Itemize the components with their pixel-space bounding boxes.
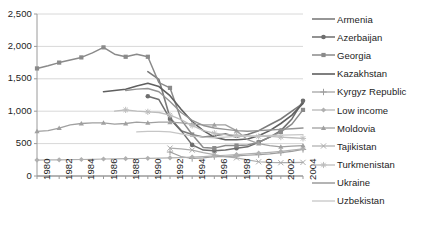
x-tick-label: 1996: [218, 158, 229, 180]
legend-item-azerbaijan[interactable]: Azerbaijan: [311, 28, 424, 46]
x-tick-label: 1980: [41, 158, 52, 180]
x-tick-label: 1994: [196, 158, 207, 180]
legend-label: Azerbaijan: [337, 32, 382, 43]
legend-key-icon: [311, 12, 337, 26]
chart-legend: ArmeniaAzerbaijanGeorgiaKazakhstanKyrgyz…: [311, 10, 424, 210]
legend-item-low-income[interactable]: Low income: [311, 101, 424, 119]
legend-label: Uzbekistan: [337, 195, 385, 206]
x-tick-label: 1992: [174, 158, 185, 180]
legend-item-georgia[interactable]: Georgia: [311, 46, 424, 64]
legend-item-ukraine[interactable]: Ukraine: [311, 174, 424, 192]
legend-item-uzbekistan[interactable]: Uzbekistan: [311, 192, 424, 210]
x-tick-label: 2002: [285, 158, 296, 180]
y-tick-label: 1,500: [0, 73, 32, 83]
legend-item-armenia[interactable]: Armenia: [311, 10, 424, 28]
legend-label: Turkmenistan: [337, 159, 395, 170]
legend-key-icon: [311, 139, 337, 153]
legend-label: Kazakhstan: [337, 68, 387, 79]
legend-label: Moldovia: [337, 123, 375, 134]
x-tick-label: 1984: [85, 158, 96, 180]
y-tick-label: 1,000: [0, 106, 32, 116]
legend-label: Tajikistan: [337, 141, 377, 152]
legend-key-icon: [311, 103, 337, 117]
legend-item-kyrgyz-republic[interactable]: Kyrgyz Republic: [311, 83, 424, 101]
legend-key-icon: [311, 85, 337, 99]
legend-key-icon: [311, 194, 337, 208]
series-georgia: [35, 45, 305, 150]
series-armenia: [148, 72, 303, 137]
legend-label: Low income: [337, 105, 388, 116]
data-series-layer: [34, 45, 306, 165]
legend-key-icon: [311, 67, 337, 81]
legend-label: Georgia: [337, 50, 371, 61]
legend-key-icon: [311, 176, 337, 190]
legend-label: Ukraine: [337, 177, 370, 188]
legend-item-kazakhstan[interactable]: Kazakhstan: [311, 65, 424, 83]
legend-label: Kyrgyz Republic: [337, 86, 406, 97]
chart-figure: 05001,0001,5002,0002,500 198019821984198…: [0, 0, 424, 228]
legend-item-tajikistan[interactable]: Tajikistan: [311, 137, 424, 155]
x-tick-label: 1998: [241, 158, 252, 180]
legend-item-moldovia[interactable]: Moldovia: [311, 119, 424, 137]
x-tick-label: 1990: [152, 158, 163, 180]
legend-key-icon: [311, 158, 337, 172]
y-tick-label: 2,500: [0, 9, 32, 19]
legend-key-icon: [311, 48, 337, 62]
y-tick-label: 2,000: [0, 41, 32, 51]
legend-key-icon: [311, 30, 337, 44]
y-tick-label: 0: [0, 171, 32, 181]
legend-item-turkmenistan[interactable]: Turkmenistan: [311, 156, 424, 174]
series-moldovia: [34, 120, 305, 149]
y-tick-label: 500: [0, 138, 32, 148]
legend-key-icon: [311, 121, 337, 135]
x-tick-label: 1986: [108, 158, 119, 180]
legend-label: Armenia: [337, 14, 373, 25]
x-tick-label: 1982: [63, 158, 74, 180]
x-tick-label: 2000: [263, 158, 274, 180]
x-tick-label: 1988: [130, 158, 141, 180]
